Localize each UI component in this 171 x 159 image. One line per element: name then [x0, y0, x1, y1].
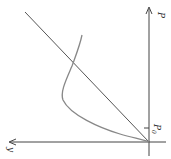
p0-label-sub: 0 [151, 130, 158, 134]
vertical-axis-label: P [156, 11, 166, 19]
p0-label: P0 [151, 123, 162, 134]
curve [62, 35, 149, 142]
horizontal-axis-label: y [6, 146, 16, 153]
diagonal-line [25, 12, 149, 142]
diagram-canvas: P P0 y [0, 0, 171, 159]
